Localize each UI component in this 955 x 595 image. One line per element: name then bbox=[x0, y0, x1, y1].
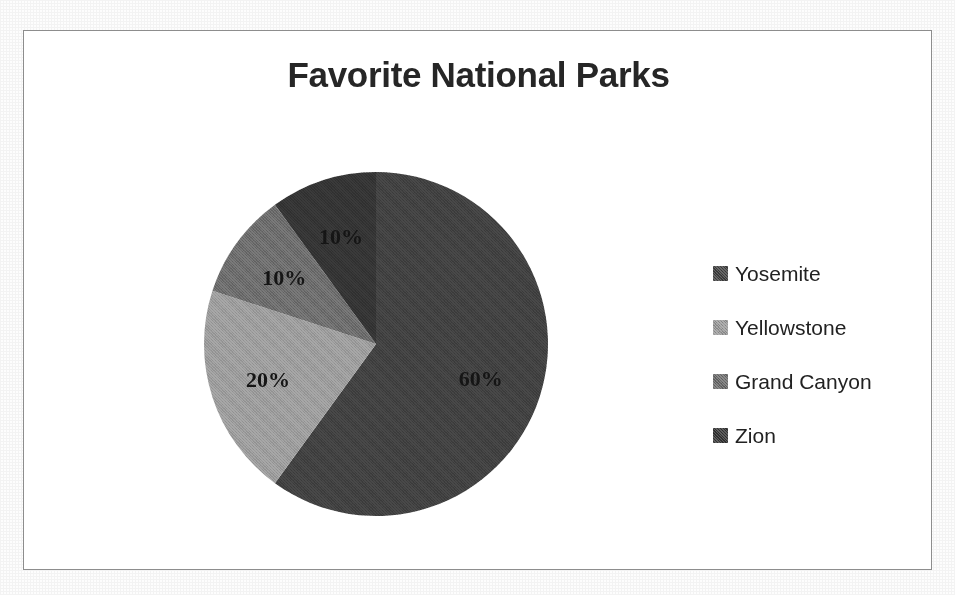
legend-item[interactable]: Grand Canyon bbox=[713, 354, 923, 408]
chart-frame: Favorite National Parks 60%20%10%10% Yos… bbox=[23, 30, 932, 570]
legend-item-label: Grand Canyon bbox=[735, 371, 872, 392]
pie-slice-data-label: 20% bbox=[246, 367, 290, 392]
pie-slice-data-label: 10% bbox=[319, 224, 363, 249]
legend-item[interactable]: Zion bbox=[713, 408, 923, 462]
pie-chart-plot-area: 60%20%10%10% bbox=[203, 171, 549, 517]
legend-color-swatch-icon bbox=[713, 428, 728, 443]
legend-item-label: Yellowstone bbox=[735, 317, 846, 338]
pie-slice-data-label: 60% bbox=[459, 366, 503, 391]
pie-chart: 60%20%10%10% bbox=[203, 171, 549, 517]
legend-item-label: Yosemite bbox=[735, 263, 821, 284]
chart-title: Favorite National Parks bbox=[24, 55, 933, 95]
legend-color-swatch-icon bbox=[713, 374, 728, 389]
pie-slice-group bbox=[204, 172, 548, 516]
legend-item[interactable]: Yellowstone bbox=[713, 300, 923, 354]
chart-legend: YosemiteYellowstoneGrand CanyonZion bbox=[713, 246, 923, 462]
legend-item-label: Zion bbox=[735, 425, 776, 446]
legend-item[interactable]: Yosemite bbox=[713, 246, 923, 300]
legend-color-swatch-icon bbox=[713, 266, 728, 281]
pie-slice-data-label: 10% bbox=[262, 265, 306, 290]
legend-color-swatch-icon bbox=[713, 320, 728, 335]
